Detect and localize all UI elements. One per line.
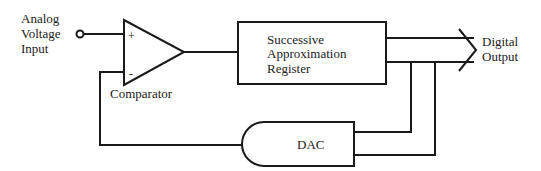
sar-label-line-1: Successive — [267, 32, 324, 47]
sar-adc-diagram: + - Analog Voltage Input Comparator Succ… — [0, 0, 541, 171]
output-label-line-1: Digital — [482, 34, 518, 49]
sar-label-line-2: Approximation — [267, 46, 347, 61]
dac-input-wire-1 — [354, 62, 411, 132]
output-label-line-2: Output — [482, 49, 519, 64]
input-label-line-3: Input — [21, 41, 49, 56]
output-arrow-head — [459, 29, 476, 71]
dac-label: DAC — [297, 137, 324, 152]
plus-symbol: + — [128, 29, 135, 43]
sar-label-line-3: Register — [267, 61, 311, 76]
input-label-line-1: Analog — [21, 11, 60, 26]
minus-symbol: - — [129, 67, 133, 81]
input-label-line-2: Voltage — [21, 26, 61, 41]
comparator-label: Comparator — [110, 86, 173, 101]
feedback-wire — [100, 72, 242, 145]
input-terminal — [77, 31, 84, 38]
dac-input-wire-2 — [354, 62, 435, 155]
